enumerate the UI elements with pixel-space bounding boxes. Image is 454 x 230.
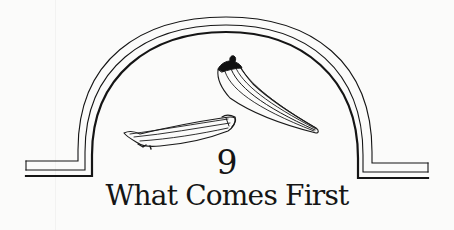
chapter-opening-page: 9 What Comes First [0, 0, 454, 230]
chapter-number: 9 [0, 146, 454, 179]
chapter-title: What Comes First [0, 180, 454, 212]
